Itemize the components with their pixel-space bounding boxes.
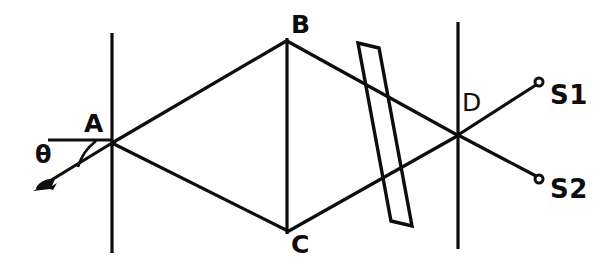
label-point-a: A [84,111,103,136]
label-point-c: C [291,232,309,257]
label-angle-theta: θ [35,143,52,167]
beam-c-to-d [287,135,459,232]
optics-diagram: A B C D S1 S2 θ [0,0,612,275]
label-output-s2: S2 [550,176,588,202]
beam-d-to-s2 [458,135,536,176]
beam-a-to-b [112,40,288,143]
label-point-b: B [291,12,310,37]
beam-a-to-c [112,143,288,231]
s2-detector-dot [535,175,543,183]
label-output-s1: S1 [550,82,588,108]
s1-detector-dot [535,78,543,86]
label-point-d: D [462,90,481,115]
tilted-glass-plate [358,43,412,226]
